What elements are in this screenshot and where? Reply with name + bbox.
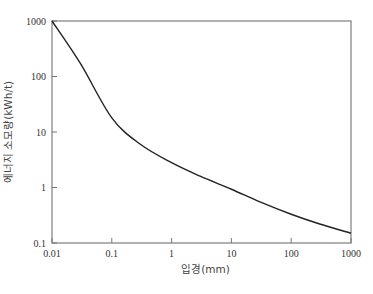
- data-line: [52, 21, 351, 233]
- plot-frame: [52, 21, 351, 243]
- x-axis: 0.010.11101001000: [43, 238, 361, 259]
- x-tick-label: 0.01: [43, 248, 61, 259]
- y-tick-label: 100: [31, 71, 46, 82]
- x-tick-label: 100: [284, 248, 299, 259]
- y-tick-label: 10: [36, 127, 46, 138]
- y-axis-label: 에너지 소모량(kWh/t): [2, 81, 14, 183]
- y-tick-label: 1: [41, 182, 46, 193]
- y-tick-label: 1000: [26, 16, 46, 27]
- x-tick-label: 1: [169, 248, 174, 259]
- x-tick-label: 0.1: [106, 248, 119, 259]
- x-axis-label: 입경(mm): [181, 263, 230, 275]
- x-tick-label: 1000: [341, 248, 361, 259]
- y-tick-label: 0.1: [34, 238, 47, 249]
- chart: 0.010.11101001000 0.11101001000 입경(mm) 에…: [0, 0, 373, 294]
- x-tick-label: 10: [226, 248, 236, 259]
